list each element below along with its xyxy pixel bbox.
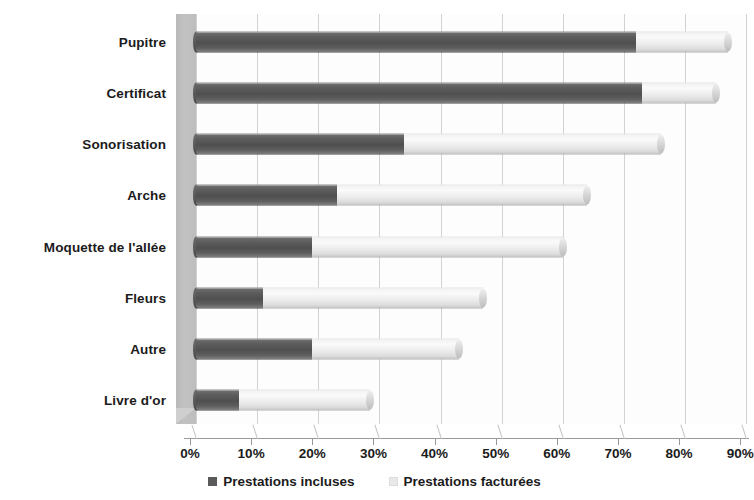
bar-segment-included bbox=[196, 185, 337, 206]
gridline-10 bbox=[257, 14, 258, 424]
bar-segment-included bbox=[196, 31, 636, 52]
bar-segment-billed bbox=[636, 31, 728, 52]
bar-autre bbox=[196, 339, 459, 360]
tick-riser bbox=[497, 425, 503, 440]
plot-canvas bbox=[196, 14, 749, 424]
chart-legend: Prestations inclusesPrestations facturée… bbox=[0, 474, 749, 489]
tick-riser bbox=[680, 425, 686, 440]
category-label: Sonorisation bbox=[82, 137, 166, 152]
tick-riser bbox=[619, 425, 625, 440]
legend-swatch-icon bbox=[208, 477, 217, 486]
bar-segment-billed bbox=[312, 236, 563, 257]
bar-segment-billed bbox=[642, 82, 715, 103]
bar-pupitre bbox=[196, 31, 728, 52]
x-tick-label: 10% bbox=[238, 446, 265, 461]
plot-area bbox=[176, 14, 749, 438]
bar-segment-included bbox=[196, 134, 404, 155]
gridline-40 bbox=[441, 14, 442, 424]
bar-certificat bbox=[196, 82, 716, 103]
bar-segment-included bbox=[196, 390, 239, 411]
bar-end-cap bbox=[724, 32, 732, 51]
chart-wall-left bbox=[176, 14, 196, 424]
bar-end-cap bbox=[583, 186, 591, 205]
tick-mark bbox=[373, 438, 374, 445]
tick-mark bbox=[312, 438, 313, 445]
bar-end-cap bbox=[479, 288, 487, 307]
x-tick-label: 80% bbox=[666, 446, 693, 461]
gridline-50 bbox=[502, 14, 503, 424]
gridline-90 bbox=[746, 14, 747, 424]
bar-livre-d-or bbox=[196, 390, 370, 411]
x-axis-tick-labels: 0%10%20%30%40%50%60%70%80%90% bbox=[176, 446, 749, 466]
bar-arche bbox=[196, 185, 587, 206]
bar-end-cap bbox=[366, 391, 374, 410]
category-label: Arche bbox=[127, 188, 166, 203]
legend-item-billed[interactable]: Prestations facturées bbox=[389, 474, 541, 489]
bar-segment-billed bbox=[337, 185, 588, 206]
x-tick-label: 90% bbox=[727, 446, 754, 461]
tick-mark bbox=[557, 438, 558, 445]
gridline-60 bbox=[563, 14, 564, 424]
x-axis bbox=[176, 424, 749, 446]
tick-mark bbox=[740, 438, 741, 445]
bar-end-cap bbox=[559, 237, 567, 256]
category-label: Fleurs bbox=[125, 290, 166, 305]
tick-riser bbox=[253, 425, 259, 440]
tick-mark bbox=[496, 438, 497, 445]
x-tick-label: 70% bbox=[604, 446, 631, 461]
tick-mark bbox=[251, 438, 252, 445]
legend-item-included[interactable]: Prestations incluses bbox=[208, 474, 354, 489]
category-label: Moquette de l'allée bbox=[44, 239, 166, 254]
bar-segment-included bbox=[196, 339, 312, 360]
tick-mark bbox=[618, 438, 619, 445]
x-tick-label: 30% bbox=[360, 446, 387, 461]
bar-segment-included bbox=[196, 287, 263, 308]
chart-wall-bottom-bevel bbox=[176, 408, 196, 424]
legend-swatch-icon bbox=[389, 477, 398, 486]
category-label: Pupitre bbox=[119, 34, 166, 49]
bar-segment-included bbox=[196, 236, 312, 257]
x-tick-label: 60% bbox=[543, 446, 570, 461]
category-label: Livre d'or bbox=[104, 393, 166, 408]
legend-label: Prestations incluses bbox=[223, 474, 354, 489]
bar-segment-billed bbox=[239, 390, 370, 411]
bar-sonorisation bbox=[196, 134, 661, 155]
bar-segment-billed bbox=[312, 339, 459, 360]
gridline-0 bbox=[196, 14, 197, 424]
tick-riser bbox=[375, 425, 381, 440]
bar-end-cap bbox=[455, 340, 463, 359]
gridline-30 bbox=[379, 14, 380, 424]
tick-mark bbox=[435, 438, 436, 445]
gridline-80 bbox=[685, 14, 686, 424]
x-tick-label: 20% bbox=[299, 446, 326, 461]
bar-moquette-de-l-all-e bbox=[196, 236, 563, 257]
category-axis-labels: PupitreCertificatSonorisationArcheMoquet… bbox=[0, 0, 172, 440]
category-label: Certificat bbox=[106, 85, 166, 100]
gridline-70 bbox=[624, 14, 625, 424]
category-label: Autre bbox=[130, 342, 166, 357]
tick-mark bbox=[190, 438, 191, 445]
tick-mark bbox=[679, 438, 680, 445]
gridline-20 bbox=[318, 14, 319, 424]
bar-segment-billed bbox=[404, 134, 661, 155]
tick-riser bbox=[558, 425, 564, 440]
bar-end-cap bbox=[657, 135, 665, 154]
tick-riser bbox=[191, 425, 197, 440]
x-tick-label: 50% bbox=[482, 446, 509, 461]
bar-segment-billed bbox=[263, 287, 483, 308]
x-axis-line bbox=[184, 438, 749, 439]
bar-fleurs bbox=[196, 287, 483, 308]
tick-riser bbox=[314, 425, 320, 440]
bar-end-cap bbox=[712, 83, 720, 102]
x-tick-label: 0% bbox=[180, 446, 200, 461]
x-tick-label: 40% bbox=[421, 446, 448, 461]
legend-label: Prestations facturées bbox=[404, 474, 541, 489]
tick-riser bbox=[742, 425, 748, 440]
bar-segment-included bbox=[196, 82, 642, 103]
tick-riser bbox=[436, 425, 442, 440]
